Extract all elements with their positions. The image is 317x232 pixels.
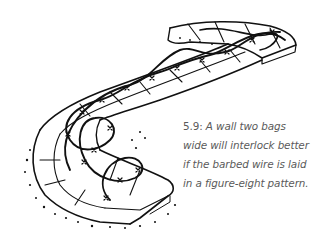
figure-number: 5.9: bbox=[183, 120, 203, 132]
caption-line-1: 5.9: A wall two bags bbox=[183, 117, 317, 136]
figure-caption: 5.9: A wall two bags wide will interlock… bbox=[183, 117, 317, 193]
caption-line-4: in a figure-eight pattern. bbox=[183, 174, 317, 193]
figure: 5.9: A wall two bags wide will interlock… bbox=[0, 0, 317, 232]
caption-line-3: if the barbed wire is laid bbox=[183, 155, 317, 174]
earthbag-wall-illustration bbox=[0, 0, 317, 232]
caption-line-2: wide will interlock better bbox=[183, 136, 317, 155]
